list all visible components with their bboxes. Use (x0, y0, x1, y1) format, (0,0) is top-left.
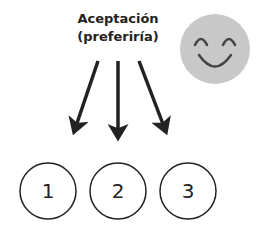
svg-text:1: 1 (42, 179, 55, 203)
diagram-canvas: 1 2 3 (0, 0, 263, 236)
option-circle-1: 1 (20, 163, 76, 219)
arrow-left-icon (74, 61, 98, 132)
smiley-face-icon (180, 14, 250, 84)
svg-text:2: 2 (112, 179, 125, 203)
option-circle-2: 2 (90, 163, 146, 219)
option-circle-3: 3 (160, 163, 216, 219)
svg-text:3: 3 (182, 179, 195, 203)
arrows (74, 61, 166, 138)
arrow-right-icon (139, 61, 166, 132)
